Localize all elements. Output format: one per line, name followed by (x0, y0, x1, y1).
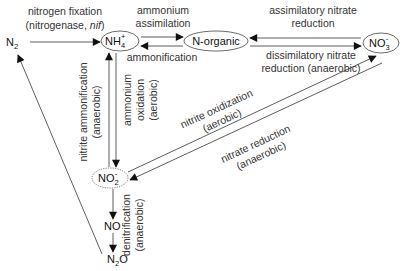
svg-text:reduction (anaerobic): reduction (anaerobic) (261, 62, 360, 74)
svg-text:oxidation: oxidation (134, 79, 146, 121)
svg-text:reduction: reduction (291, 17, 334, 29)
svg-text:NO2-: NO2- (98, 169, 119, 187)
label-nitrite-oxidization: nitrite oxidization (aerobic) (178, 86, 260, 142)
svg-text:(anaerobic): (anaerobic) (133, 198, 145, 251)
label-ammonification: ammonification (127, 51, 198, 63)
node-no: NO (104, 220, 121, 232)
svg-text:ammonium: ammonium (137, 4, 189, 16)
label-nitrite-ammonification: nitrite ammonification (anaerobic) (77, 62, 102, 161)
svg-text:assimilatory nitrate: assimilatory nitrate (269, 4, 357, 16)
node-n2: N2 (6, 36, 18, 51)
label-ammonium-assimilation: ammonium assimilation (136, 4, 191, 29)
node-no2: NO2- (92, 168, 128, 188)
label-assimilatory-nitrate-reduction: assimilatory nitrate reduction (269, 4, 357, 29)
svg-text:(anaerobic): (anaerobic) (90, 85, 102, 138)
label-denitrification: denitrification (anaerobic) (120, 194, 145, 256)
node-nh4: NH4+ (101, 31, 139, 51)
label-nitrate-reduction: nitrate reduction (anaerobic) (219, 122, 298, 177)
label-ammonium-oxidation: ammonium oxidation (aerobic) (121, 74, 159, 126)
svg-text:nitrite ammonification: nitrite ammonification (77, 62, 89, 161)
svg-text:ammonium: ammonium (121, 74, 133, 126)
svg-text:(nitrogenase, nif): (nitrogenase, nif) (26, 19, 105, 31)
node-n-organic: N-organic (184, 31, 248, 51)
svg-text:N2: N2 (6, 36, 18, 51)
svg-text:(aerobic): (aerobic) (147, 79, 159, 120)
svg-text:denitrification: denitrification (120, 194, 132, 256)
label-nitrogen-fixation: nitrogen fixation (nitrogenase, nif) (26, 5, 105, 31)
svg-text:NO: NO (104, 220, 121, 232)
nitrogen-cycle-diagram: N2 NH4+ N-organic NO3- NO2- NO N2O (0, 0, 412, 271)
svg-text:NH4+: NH4+ (105, 32, 126, 50)
svg-text:dissimilatory nitrate: dissimilatory nitrate (266, 49, 356, 61)
svg-text:N-organic: N-organic (192, 35, 240, 47)
arrow-n2o-to-n2 (18, 55, 102, 254)
svg-text:nitrogen fixation: nitrogen fixation (28, 5, 102, 17)
svg-text:assimilation: assimilation (136, 17, 191, 29)
node-no3: NO3- (363, 33, 399, 53)
label-dissimilatory-nitrate-reduction: dissimilatory nitrate reduction (anaerob… (261, 49, 360, 74)
svg-text:ammonification: ammonification (127, 51, 198, 63)
svg-text:NO3-: NO3- (369, 34, 390, 52)
